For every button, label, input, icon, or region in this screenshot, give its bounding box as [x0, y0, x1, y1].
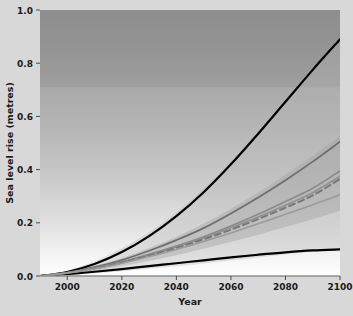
y-axis-title: Sea level rise (metres)	[4, 82, 15, 204]
x-tick-label: 2060	[218, 282, 243, 292]
x-tick-label: 2080	[273, 282, 298, 292]
y-tick-label: 0.6	[17, 112, 33, 122]
y-tick-label: 0.0	[17, 272, 33, 282]
y-tick-label: 0.4	[17, 165, 33, 175]
x-tick-label: 2020	[109, 282, 134, 292]
y-tick-label: 0.8	[17, 59, 33, 69]
x-axis-title: Year	[177, 296, 202, 307]
sea-level-rise-line-chart: 200020202040206020802100 0.00.20.40.60.8…	[0, 0, 353, 316]
x-tick-label: 2040	[164, 282, 189, 292]
x-tick-label: 2000	[55, 282, 80, 292]
y-tick-label: 0.2	[17, 218, 33, 228]
y-tick-label: 1.0	[17, 6, 33, 16]
chart-figure: 200020202040206020802100 0.00.20.40.60.8…	[0, 0, 353, 316]
x-tick-label: 2100	[327, 282, 352, 292]
